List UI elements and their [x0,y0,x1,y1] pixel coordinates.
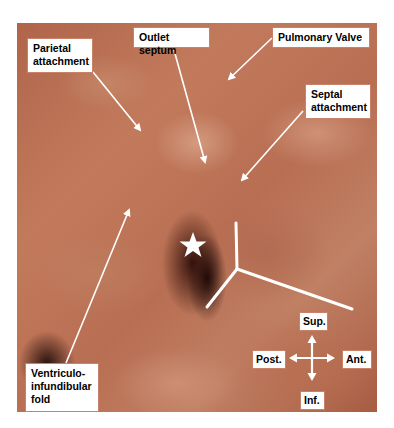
label-parietal-attachment: Parietal attachment [27,38,93,73]
label-line: attachment [33,55,87,68]
orientation-sup: Sup. [299,312,328,331]
orientation-post: Post. [252,350,286,369]
label-line: infundibular [31,380,93,393]
label-line: Parietal [33,42,87,55]
label-ventriculo-infundibular-fold: Ventriculo- infundibular fold [25,363,99,412]
arrow-pulmonary-valve [229,38,272,79]
label-line: Septal [311,88,365,101]
label-outlet-septum: Outlet septum [133,27,210,48]
star-icon [180,232,207,257]
arrow-outlet-septum [174,50,205,162]
arrow-ventriculo-infundibular-fold [66,210,129,363]
arrow-parietal-attachment [93,72,140,130]
orientation-ant: Ant. [342,350,372,369]
orientation-compass-icon [289,335,335,381]
orientation-inf: Inf. [300,391,325,410]
arrow-septal-attachment [242,111,303,180]
label-line: attachment [311,101,365,114]
label-line: fold [31,393,93,406]
label-pulmonary-valve: Pulmonary Valve [272,27,370,48]
y-shape-marker [207,223,352,309]
label-septal-attachment: Septal attachment [305,84,371,119]
label-line: Ventriculo- [31,367,93,380]
